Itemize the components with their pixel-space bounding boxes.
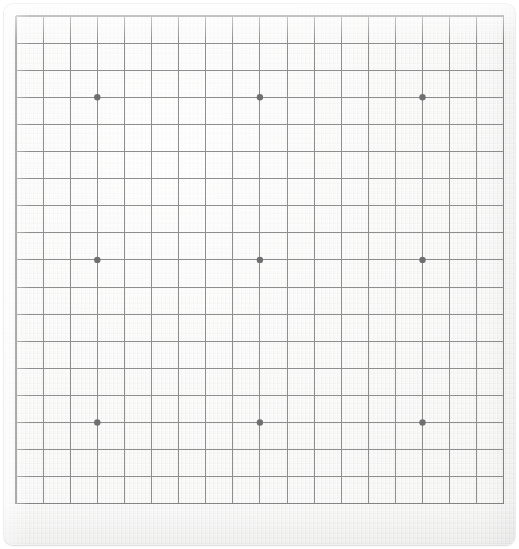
star-point — [94, 257, 100, 263]
star-point — [419, 257, 425, 263]
star-point — [257, 419, 263, 425]
go-board[interactable] — [4, 4, 515, 545]
star-point — [419, 419, 425, 425]
star-point — [94, 419, 100, 425]
star-point — [257, 94, 263, 100]
star-point — [257, 257, 263, 263]
board-grid — [4, 4, 515, 545]
star-point — [94, 94, 100, 100]
star-point — [419, 94, 425, 100]
app-root — [0, 0, 519, 549]
